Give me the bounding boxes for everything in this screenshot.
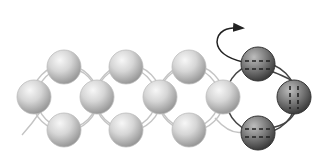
right-angle-weave-diagram	[0, 0, 313, 151]
bead-unit2-right	[143, 80, 177, 114]
bead-unit3-bottom	[172, 113, 206, 147]
arrow-icon	[217, 28, 243, 62]
bead-unit3-right	[206, 80, 240, 114]
light-beads	[17, 50, 240, 147]
bead-unit1-top	[47, 50, 81, 84]
bead-unit1-left	[17, 80, 51, 114]
bead-unit4-top	[241, 47, 275, 81]
bead-unit4-right	[277, 80, 311, 114]
bead-unit4-bottom	[241, 116, 275, 150]
bead-unit3-top	[172, 50, 206, 84]
bead-unit1-bottom	[47, 113, 81, 147]
bead-unit1-right	[80, 80, 114, 114]
bead-unit2-top	[109, 50, 143, 84]
bead-unit2-bottom	[109, 113, 143, 147]
dark-beads	[241, 47, 311, 150]
